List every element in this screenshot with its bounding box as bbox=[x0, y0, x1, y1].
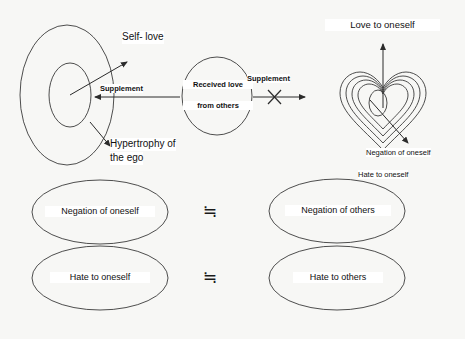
label-self-love: Self- love bbox=[122, 31, 164, 44]
label-negation-of-oneself-heart: Negation of oneself bbox=[366, 148, 431, 157]
label-hate-to-oneself-heart: Hate to oneself bbox=[358, 170, 408, 179]
label-ellipse-negation-of-oneself: Negation of oneself bbox=[45, 206, 155, 217]
outer-ellipse-shape bbox=[20, 25, 114, 165]
diagram-canvas: Self- love Supplement Hypertrophy of the… bbox=[0, 0, 465, 339]
relation-symbol-row2: ≒ bbox=[195, 269, 225, 286]
label-hypertrophy-line1: Hypertrophy of bbox=[110, 138, 176, 151]
heart-inner-oval-shape bbox=[369, 90, 387, 116]
label-received-love-line2: from others bbox=[183, 101, 253, 110]
label-hypertrophy-line2: the ego bbox=[110, 152, 143, 165]
label-love-to-oneself: Love to oneself bbox=[325, 19, 440, 31]
relation-symbol-row1: ≒ bbox=[195, 203, 225, 220]
arrow-to-hypertrophy bbox=[90, 122, 110, 146]
label-received-love-line1: Received love bbox=[183, 80, 253, 89]
label-ellipse-negation-of-others: Negation of others bbox=[285, 205, 391, 216]
label-supplement-right: Supplement bbox=[247, 74, 290, 83]
label-supplement-left: Supplement bbox=[100, 84, 143, 93]
received-love-circle-shape bbox=[182, 57, 252, 135]
label-ellipse-hate-to-others: Hate to others bbox=[293, 272, 383, 283]
label-ellipse-hate-to-oneself: Hate to oneself bbox=[50, 272, 150, 283]
